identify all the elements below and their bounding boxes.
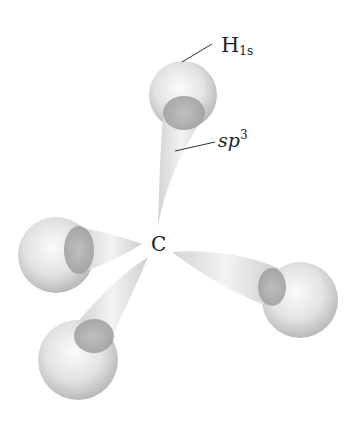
methane-orbital-diagram xyxy=(0,0,358,431)
h-main: H xyxy=(221,33,239,57)
sp3-label: sp3 xyxy=(218,128,248,151)
sp-sup: 3 xyxy=(240,128,248,142)
h-sub: 1s xyxy=(239,44,253,58)
sp-main: sp xyxy=(218,129,240,151)
overlap-left xyxy=(64,226,94,274)
overlap-top xyxy=(163,96,205,130)
h1s-leader-line xyxy=(182,44,212,62)
sp3-lobe-top xyxy=(158,115,205,226)
h1s-label: H1s xyxy=(221,33,253,58)
orbital-right xyxy=(172,251,338,338)
overlap-bottom-left xyxy=(74,319,114,353)
carbon-label: C xyxy=(151,232,166,256)
overlap-right xyxy=(258,268,286,306)
